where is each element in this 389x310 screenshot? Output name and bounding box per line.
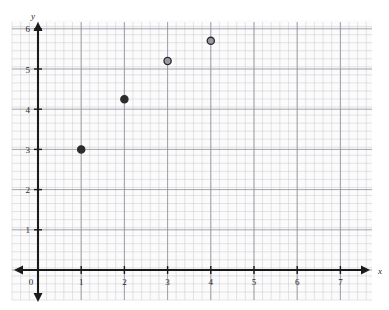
x-tick-label: 4 bbox=[209, 277, 214, 287]
y-tick-label: 3 bbox=[26, 145, 31, 155]
x-tick-label: 7 bbox=[338, 277, 343, 287]
scatter-plot-figure: 1234567123456 x y 0 bbox=[0, 0, 389, 310]
x-tick-label: 2 bbox=[122, 277, 127, 287]
x-axis-label: x bbox=[377, 266, 382, 276]
y-tick-label: 5 bbox=[26, 65, 31, 75]
data-point-marker bbox=[207, 37, 214, 44]
x-tick-label: 5 bbox=[252, 277, 257, 287]
y-tick-label: 6 bbox=[26, 24, 31, 34]
origin-tick-label: 0 bbox=[29, 277, 34, 287]
x-tick-label: 1 bbox=[79, 277, 84, 287]
y-tick-label: 4 bbox=[26, 105, 31, 115]
y-tick-label: 2 bbox=[26, 185, 31, 195]
x-tick-label: 3 bbox=[165, 277, 170, 287]
data-point-marker bbox=[78, 146, 85, 153]
y-tick-label: 1 bbox=[26, 225, 31, 235]
graph-paper-background bbox=[12, 20, 372, 300]
data-point-marker bbox=[121, 96, 128, 103]
plot-canvas: 1234567123456 x y 0 bbox=[0, 0, 389, 310]
x-tick-label: 6 bbox=[295, 277, 300, 287]
data-point-marker bbox=[164, 57, 171, 64]
y-axis-label: y bbox=[30, 11, 35, 21]
